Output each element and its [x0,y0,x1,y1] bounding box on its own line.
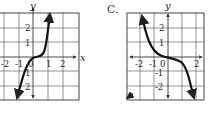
svg-text:-2: -2 [155,82,163,92]
svg-text:2: 2 [25,82,30,92]
graph-b: x y -2 -1 0 1 2 2 1 1 2 [0,0,86,100]
graph-c: y -2 -1 0 2 2 1 -1 -2 [127,0,204,100]
answer-choices-figure: x y -2 -1 0 1 2 2 1 1 2 [0,0,213,119]
graph-c-corner-arrow-icon [127,94,133,98]
svg-text:1: 1 [46,59,51,69]
svg-text:2: 2 [194,59,199,69]
graph-b-curve [17,14,50,98]
svg-text:-1: -1 [15,59,23,69]
svg-text:2: 2 [25,23,30,33]
svg-text:-2: -2 [1,59,9,69]
graph-b-x-axis-label: x [80,52,86,63]
svg-text:-2: -2 [135,59,143,69]
graph-c-y-axis-label: y [164,0,171,11]
svg-text:2: 2 [60,59,65,69]
svg-text:2: 2 [159,23,164,33]
graph-b-y-axis-label: y [29,0,36,11]
choice-c-label: C. [107,3,119,16]
svg-text:-1: -1 [155,68,163,78]
svg-text:1: 1 [25,38,30,48]
svg-text:1: 1 [159,38,164,48]
